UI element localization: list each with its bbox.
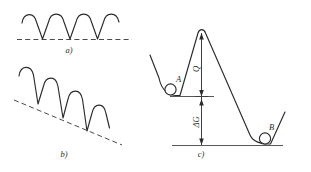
point-label-A: A — [175, 74, 182, 84]
panel-b: b) — [14, 67, 122, 159]
panel-b-label: b) — [60, 149, 67, 159]
figure-root: a) b) — [0, 0, 311, 172]
panel-c-label: c) — [198, 149, 205, 159]
ball-B — [259, 133, 270, 144]
panel-a: a) — [17, 14, 132, 55]
activation-energy-label: Q — [191, 66, 201, 72]
panel-c-arrowhead-top — [199, 33, 204, 40]
panel-c-arrowhead-mid-up — [199, 90, 204, 97]
point-label-B: B — [269, 122, 274, 132]
panel-c-arrowhead-mid-down — [199, 99, 204, 106]
panel-b-baseline-dashed — [14, 100, 122, 145]
panel-b-wave-curve — [19, 67, 110, 131]
figure-canvas: a) b) — [0, 0, 311, 172]
panel-c-arrowhead-bottom — [199, 139, 204, 146]
panel-c: A B Q ΔG c) — [150, 30, 285, 159]
panel-a-label: a) — [65, 45, 72, 55]
free-energy-change-label: ΔG — [191, 116, 201, 128]
ball-A — [165, 84, 176, 95]
panel-a-wave-curve — [22, 14, 119, 39]
